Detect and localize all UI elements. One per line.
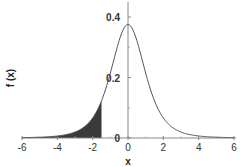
y-tick-label: 0.4 — [106, 12, 120, 23]
x-tick-label: -6 — [18, 142, 27, 153]
x-tick-label: -4 — [53, 142, 62, 153]
density-chart: -6-4-20246 00.20.4 x f (x) — [0, 0, 240, 167]
x-axis-label: x — [125, 156, 131, 167]
shaded-tail-area — [22, 101, 102, 138]
y-tick-label: 0 — [114, 133, 120, 144]
x-tick-label: 6 — [231, 142, 237, 153]
x-axis-ticks: -6-4-20246 — [18, 136, 238, 153]
plot-area: -6-4-20246 00.20.4 — [18, 2, 238, 153]
y-axis-ticks: 00.20.4 — [106, 12, 131, 144]
x-tick-label: 0 — [125, 142, 131, 153]
x-tick-label: 4 — [196, 142, 202, 153]
y-axis-label: f (x) — [5, 69, 16, 87]
x-tick-label: 2 — [161, 142, 167, 153]
x-tick-label: -2 — [88, 142, 97, 153]
